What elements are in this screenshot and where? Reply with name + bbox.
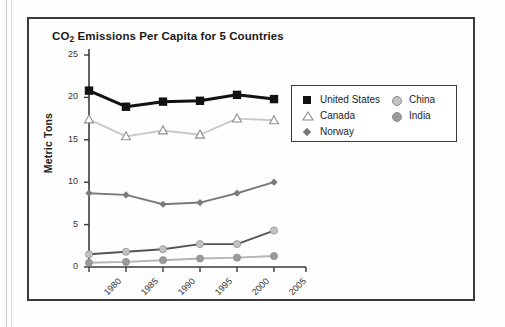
data-point-norway[interactable]	[122, 191, 129, 198]
legend-marker-diamond-icon	[301, 125, 315, 139]
y-axis-tick-label: 20	[56, 91, 78, 101]
data-point-norway[interactable]	[270, 179, 277, 186]
data-point-china[interactable]	[85, 251, 92, 258]
data-point-india[interactable]	[270, 252, 277, 259]
data-point-china[interactable]	[270, 227, 277, 234]
data-point-china[interactable]	[196, 241, 203, 248]
page-margin-rule	[6, 0, 7, 327]
circle-icon	[392, 96, 402, 106]
data-point-india[interactable]	[159, 257, 166, 264]
legend-marker-filled-square-icon	[301, 93, 315, 107]
series-line-united-states	[89, 91, 274, 107]
y-axis-tick-label: 10	[56, 176, 78, 186]
data-point-china[interactable]	[122, 248, 129, 255]
data-point-china[interactable]	[233, 241, 240, 248]
data-point-united-states[interactable]	[270, 95, 278, 103]
data-point-united-states[interactable]	[122, 103, 130, 111]
legend-column-left: United StatesCanadaNorway	[301, 92, 380, 140]
data-point-united-states[interactable]	[159, 97, 167, 105]
chart-figure: CO2 Emissions Per Capita for 5 Countries…	[27, 17, 475, 301]
data-point-united-states[interactable]	[85, 86, 93, 94]
data-point-united-states[interactable]	[233, 91, 241, 99]
legend-marker-circle-icon	[390, 109, 404, 123]
y-axis-tick-label: 5	[56, 219, 78, 229]
data-point-china[interactable]	[159, 246, 166, 253]
legend-entry-china[interactable]: China	[390, 92, 435, 107]
data-point-norway[interactable]	[233, 190, 240, 197]
legend-label: Canada	[320, 110, 355, 121]
series-line-canada	[89, 119, 274, 137]
triangle-icon	[301, 109, 315, 123]
series-line-china	[89, 231, 274, 255]
legend-column-right: ChinaIndia	[390, 92, 435, 124]
plot-area	[29, 19, 477, 303]
y-axis-tick-label: 15	[56, 134, 78, 144]
data-point-india[interactable]	[233, 254, 240, 261]
legend-entry-united-states[interactable]: United States	[301, 92, 380, 107]
data-point-norway[interactable]	[85, 190, 92, 197]
data-point-india[interactable]	[196, 255, 203, 262]
square-icon	[303, 96, 311, 104]
data-point-norway[interactable]	[159, 201, 166, 208]
data-point-canada[interactable]	[85, 115, 94, 123]
legend-label: China	[409, 94, 435, 105]
y-axis-tick-label: 0	[56, 261, 78, 271]
data-point-india[interactable]	[85, 259, 92, 266]
page-margin-rule-secondary	[11, 0, 12, 327]
series-line-norway	[89, 182, 274, 204]
data-point-norway[interactable]	[196, 199, 203, 206]
page-background: CO2 Emissions Per Capita for 5 Countries…	[0, 0, 505, 327]
data-point-india[interactable]	[122, 258, 129, 265]
data-point-united-states[interactable]	[196, 97, 204, 105]
legend-entry-india[interactable]: India	[390, 108, 435, 123]
legend-entry-norway[interactable]: Norway	[301, 124, 380, 139]
legend-marker-circle-icon	[390, 93, 404, 107]
legend-label: United States	[320, 94, 380, 105]
chart-legend: United StatesCanadaNorway ChinaIndia	[291, 85, 457, 142]
legend-label: Norway	[320, 126, 354, 137]
legend-entry-canada[interactable]: Canada	[301, 108, 380, 123]
legend-label: India	[409, 110, 431, 121]
y-axis-tick-label: 25	[56, 49, 78, 59]
series-line-india	[89, 256, 274, 263]
diamond-icon	[303, 127, 311, 135]
circle-icon	[392, 112, 402, 122]
legend-marker-open-triangle-icon	[301, 109, 315, 123]
